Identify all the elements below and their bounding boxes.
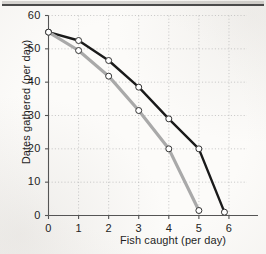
data-point-marker <box>196 208 202 214</box>
data-point-marker <box>106 58 112 64</box>
data-point-marker <box>136 108 142 114</box>
y-axis-title: Dates gathered (per day) <box>20 22 32 182</box>
chart-figure: 0102030405060 0123456 Dates gathered (pe… <box>0 0 266 254</box>
series-black-curve <box>46 29 228 215</box>
y-tick-label: 60 <box>17 9 41 21</box>
x-tick-label: 5 <box>190 222 208 234</box>
data-point-marker <box>166 116 172 122</box>
data-point-marker <box>136 84 142 90</box>
y-tick-label: 0 <box>17 209 41 221</box>
series-line-gray-curve <box>49 32 199 210</box>
data-point-marker <box>76 38 82 44</box>
data-point-marker <box>221 209 227 215</box>
vertical-gridlines <box>79 16 229 216</box>
series-gray-curve <box>46 29 202 213</box>
x-tick-label: 4 <box>160 222 178 234</box>
series-layer <box>46 29 228 215</box>
x-tick-label: 0 <box>40 222 58 234</box>
axis-lines <box>49 16 259 216</box>
data-point-marker <box>106 73 112 79</box>
data-point-marker <box>196 146 202 152</box>
x-tick-label: 1 <box>70 222 88 234</box>
data-point-marker <box>46 29 52 35</box>
data-point-marker <box>76 48 82 54</box>
x-tick-label: 6 <box>220 222 238 234</box>
data-point-marker <box>166 146 172 152</box>
x-axis-title: Fish caught (per day) <box>120 234 226 246</box>
x-tick-label: 3 <box>130 222 148 234</box>
series-line-black-curve <box>49 32 225 212</box>
x-tick-label: 2 <box>100 222 118 234</box>
